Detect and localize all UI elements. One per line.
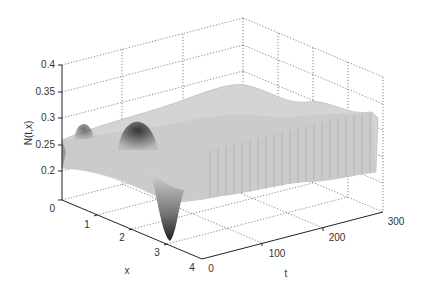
surface [62, 85, 378, 241]
z-tick-label: 0.2 [41, 165, 55, 176]
z-tick-label: 0.3 [41, 112, 55, 123]
t-tick-label: 300 [388, 216, 405, 227]
x-tick-label: 2 [119, 232, 125, 243]
x-axis-label: x [125, 265, 130, 276]
t-tick-label: 0 [208, 263, 214, 274]
x-tick-label: 3 [154, 247, 160, 258]
t-tick-label: 200 [329, 232, 346, 243]
z-tick-label: 0 [49, 203, 55, 214]
x-tick-label: 1 [84, 219, 90, 230]
surface-plot: 0.4 0.35 0.3 0.25 0.2 0 1 2 3 4 0 100 20… [0, 0, 425, 293]
z-tick-label: 0.35 [36, 86, 56, 97]
z-tick-label: 0.4 [41, 59, 55, 70]
t-axis-label: t [285, 268, 288, 279]
z-axis-label: N(t,x) [23, 121, 34, 145]
x-tick-label: 4 [189, 262, 195, 273]
z-tick-label: 0.25 [36, 139, 56, 150]
t-tick-label: 100 [269, 248, 286, 259]
